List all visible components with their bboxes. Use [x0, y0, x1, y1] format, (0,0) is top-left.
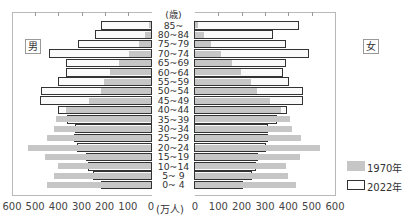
tick-mark	[58, 12, 59, 16]
female-label: 女	[363, 39, 379, 54]
tick-mark	[218, 12, 219, 16]
age-axis-unit: (歳)	[152, 10, 195, 19]
tick-mark	[265, 12, 266, 16]
bar-male-1970	[149, 22, 152, 28]
bar-male-1970	[28, 145, 151, 151]
bar-male-1970	[56, 116, 151, 122]
legend-swatch-1970	[347, 161, 365, 171]
bar-male-1970	[89, 98, 152, 104]
bar-female-2022	[194, 21, 299, 30]
bar-female-1970	[195, 163, 286, 169]
bar-female-1970	[195, 107, 281, 113]
age-label: 0~ 4	[152, 180, 195, 189]
bar-female-1970	[195, 79, 251, 85]
bar-male-1970	[54, 173, 151, 179]
bar-male-1970	[54, 126, 151, 132]
bar-female-1970	[195, 98, 270, 104]
male-label: 男	[25, 39, 41, 54]
bar-female-1970	[195, 135, 301, 141]
bar-male-1970	[119, 60, 151, 66]
legend-swatch-2022	[347, 180, 365, 190]
bar-male-1970	[104, 79, 151, 85]
bar-male-1970	[47, 135, 151, 141]
bar-female-2022	[194, 30, 273, 39]
tick-mark	[82, 12, 83, 16]
bar-female-1970	[195, 145, 320, 151]
tick-mark	[105, 12, 106, 16]
bar-male-1970	[129, 51, 151, 57]
tick-mark	[128, 12, 129, 16]
tick-mark	[288, 12, 289, 16]
bar-female-1970	[195, 60, 232, 66]
value-unit-label: (万人)	[156, 201, 184, 216]
tick-mark	[312, 12, 313, 16]
x-tick-label: 600	[320, 201, 350, 212]
tick-mark	[35, 12, 36, 16]
tick-mark	[242, 12, 243, 16]
bar-female-1970	[195, 154, 300, 160]
bar-male-1970	[66, 107, 151, 113]
bar-male-2022	[101, 21, 152, 30]
legend-label-2022: 2022年	[367, 179, 402, 194]
bar-male-1970	[45, 154, 151, 160]
bar-male-1970	[139, 41, 151, 47]
bar-male-1970	[110, 69, 151, 75]
bar-female-1970	[195, 51, 221, 57]
bar-female-1970	[195, 22, 198, 28]
bar-female-1970	[195, 182, 296, 188]
legend-label-1970: 1970年	[367, 160, 402, 175]
bar-male-1970	[101, 88, 151, 94]
bar-female-1970	[195, 41, 211, 47]
bar-male-1970	[47, 182, 151, 188]
bar-female-1970	[195, 69, 241, 75]
bar-male-1970	[58, 163, 151, 169]
bar-male-1970	[145, 32, 151, 38]
bar-female-1970	[195, 126, 292, 132]
bar-female-1970	[195, 116, 290, 122]
bar-female-1970	[195, 173, 288, 179]
bar-female-1970	[195, 88, 257, 94]
bar-female-1970	[195, 32, 204, 38]
bar-male-2022	[95, 30, 152, 39]
